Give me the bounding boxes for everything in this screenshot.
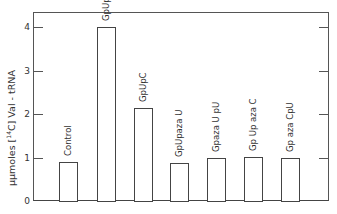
bar-label: Gp aza CpU — [285, 102, 295, 152]
bar-label: Gp Up aza C — [248, 98, 258, 151]
bar-gpupu — [97, 27, 116, 202]
bar-control — [59, 162, 78, 202]
bar-label: Gpaza U pU — [211, 102, 221, 152]
bar-label: GpUpaza U — [174, 110, 184, 157]
y-tick-label-0: 0 — [22, 197, 30, 206]
bar-gpaza-u-pu — [207, 158, 226, 202]
y-axis-title: µµmoles [14C] Val - tRNA — [5, 70, 17, 186]
y-tick-3 — [34, 71, 43, 72]
y-axis-title-suffix: C] Val - tRNA — [6, 70, 17, 131]
y-tick-label-2: 2 — [22, 110, 30, 119]
y-tick-1 — [34, 158, 43, 159]
y-tick-right-3 — [319, 71, 328, 72]
bar-gp-aza-cpu — [281, 158, 300, 202]
y-axis-title-superscript: 14 — [5, 131, 12, 139]
y-tick-right-4 — [319, 27, 328, 28]
bar-label: Control — [63, 125, 73, 156]
bar-gpupaza-u — [170, 163, 189, 202]
y-tick-label-1: 1 — [22, 154, 30, 163]
y-axis-title-prefix: µµmoles [ — [6, 139, 17, 186]
y-tick-right-1 — [319, 158, 328, 159]
y-tick-label-3: 3 — [22, 67, 30, 76]
bar-label: GpUpC — [138, 72, 148, 102]
y-tick-2 — [34, 114, 43, 115]
y-tick-right-2 — [319, 114, 328, 115]
y-tick-4 — [34, 27, 43, 28]
y-tick-label-4: 4 — [22, 23, 30, 32]
bar-label: GpUpU — [101, 0, 111, 21]
bar-gp-up-aza-c — [244, 157, 263, 202]
bar-chart: 0 1 2 3 4 µµmoles [14C] Val - tRNA Contr… — [0, 0, 337, 214]
bar-gpupc — [134, 108, 153, 202]
